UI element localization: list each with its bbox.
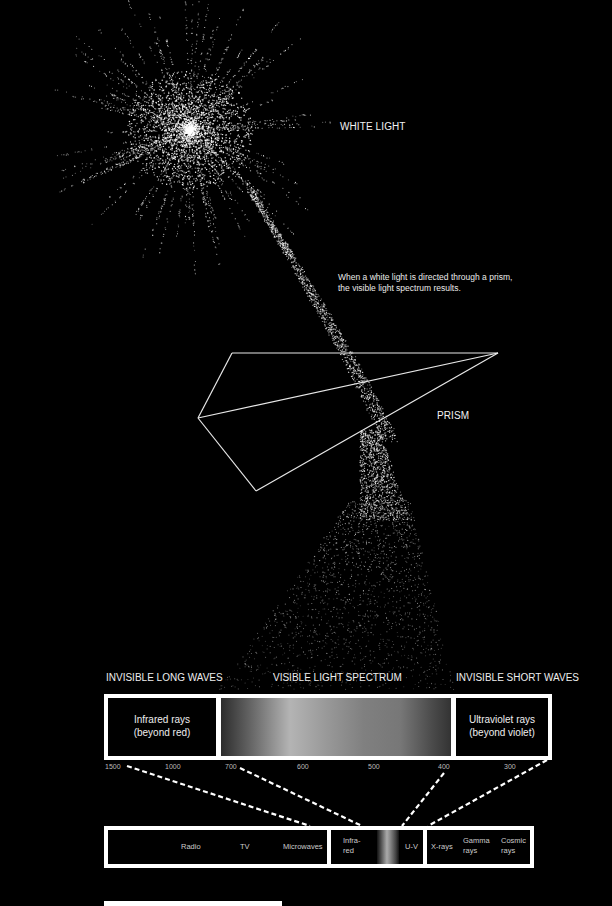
radio-label: Radio — [181, 842, 201, 852]
infrared-short-line-1: Infra- — [343, 836, 361, 846]
tick-400: 400 — [438, 763, 450, 770]
infrared-line-2: (beyond red) — [108, 727, 216, 739]
infrared-segment: Infrared rays (beyond red) — [108, 698, 216, 756]
header-visible-light-spectrum: VISIBLE LIGHT SPECTRUM — [273, 672, 402, 683]
ultraviolet-segment: Ultraviolet rays (beyond violet) — [456, 698, 548, 756]
cosmic-line-1: Cosmic — [501, 836, 526, 846]
gamma-line-2: rays — [463, 846, 477, 856]
long-wave-segment: Radio TV Microwaves — [108, 830, 327, 864]
caption-line-1: When a white light is directed through a… — [338, 272, 512, 283]
infrared-line-1: Infrared rays — [108, 714, 216, 726]
tick-600: 600 — [297, 763, 309, 770]
tv-label: TV — [240, 842, 250, 852]
caption-line-2: the visible light spectrum results. — [338, 283, 461, 294]
xrays-label: X-rays — [431, 842, 453, 852]
tick-500: 500 — [368, 763, 380, 770]
tick-300: 300 — [504, 763, 516, 770]
tick-1500: 1500 — [105, 763, 121, 770]
tick-1000: 1000 — [165, 763, 181, 770]
header-invisible-long-waves: INVISIBLE LONG WAVES — [106, 672, 223, 683]
mini-visible-spectrum — [377, 830, 399, 864]
visible-spectrum-gradient — [221, 698, 451, 756]
prism-label: PRISM — [437, 410, 469, 421]
electromagnetic-bar: Radio TV Microwaves Infra- red U-V X-ray… — [104, 826, 534, 868]
ultraviolet-line-1: Ultraviolet rays — [456, 714, 548, 726]
uv-label: U-V — [405, 842, 418, 852]
infrared-short-line-2: red — [343, 846, 354, 856]
short-wave-segment: X-rays Gamma rays Cosmic rays — [427, 830, 530, 864]
microwaves-label: Microwaves — [283, 842, 323, 852]
spectrum-bar: Infrared rays (beyond red) Ultraviolet r… — [104, 694, 552, 760]
prism-shape — [198, 353, 498, 491]
prism-and-connectors — [0, 0, 612, 906]
ultraviolet-line-2: (beyond violet) — [456, 727, 548, 739]
visible-region-segment: Infra- red U-V — [331, 830, 423, 864]
gamma-line-1: Gamma — [463, 836, 490, 846]
partial-bottom-box — [104, 901, 282, 906]
tick-700: 700 — [225, 763, 237, 770]
header-invisible-short-waves: INVISIBLE SHORT WAVES — [456, 672, 579, 683]
cosmic-line-2: rays — [501, 846, 515, 856]
white-light-label: WHITE LIGHT — [340, 121, 406, 132]
dashed-connectors — [127, 760, 547, 826]
